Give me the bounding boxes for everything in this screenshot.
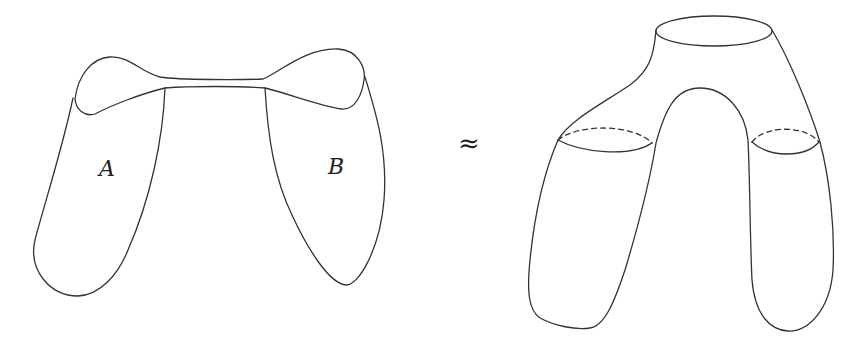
right-leg-back-arc bbox=[752, 129, 819, 142]
left-figure: A B bbox=[34, 49, 385, 296]
left-leg-front-arc bbox=[558, 140, 652, 152]
top-boundary-circle bbox=[656, 16, 772, 46]
right-figure bbox=[529, 16, 834, 331]
label-b: B bbox=[327, 154, 344, 179]
surface-a bbox=[34, 88, 165, 296]
label-a: A bbox=[97, 156, 115, 181]
left-outer-contour bbox=[529, 30, 834, 331]
band-outline-top bbox=[75, 49, 364, 115]
right-leg-front-arc bbox=[752, 142, 819, 154]
diagram-canvas: A B ≈ bbox=[0, 0, 868, 346]
approx-symbol: ≈ bbox=[458, 128, 480, 158]
left-leg-back-arc bbox=[558, 128, 652, 143]
surface-b bbox=[265, 77, 385, 285]
topology-diagram: A B ≈ bbox=[0, 0, 868, 346]
